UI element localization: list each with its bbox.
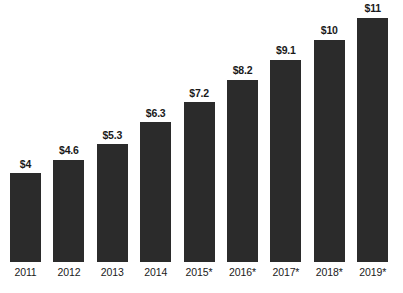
bar: [140, 122, 171, 262]
bar: [53, 160, 84, 262]
bar-group: $4: [10, 0, 41, 262]
x-axis-tick-label: 2019*: [359, 267, 386, 278]
x-axis-tick-label: 2011: [14, 267, 36, 278]
chart-plot-area: $4$4.6$5.3$6.3$7.2$8.2$9.1$10$11: [0, 0, 403, 262]
bar-value-label: $5.3: [102, 130, 122, 141]
x-axis-tick-label: 2012: [57, 267, 80, 278]
x-axis-tick-label: 2013: [101, 267, 124, 278]
bar-group: $8.2: [227, 0, 258, 262]
bar-value-label: $7.2: [189, 88, 209, 99]
bar: [227, 80, 258, 262]
bar-group: $10: [314, 0, 345, 262]
bar-group: $5.3: [97, 0, 128, 262]
x-axis-tick-label: 2017*: [272, 267, 299, 278]
bar: [97, 144, 128, 262]
bar-value-label: $9.1: [276, 45, 296, 56]
x-axis-tick-label: 2018*: [316, 267, 343, 278]
bar-value-label: $10: [321, 25, 338, 36]
bar-group: $11: [357, 0, 388, 262]
bar: [270, 60, 301, 262]
bar: [314, 40, 345, 262]
bar-value-label: $4.6: [59, 145, 79, 156]
x-axis-tick-label: 2015*: [186, 267, 213, 278]
bar-group: $9.1: [270, 0, 301, 262]
x-axis-tick-label: 2016*: [229, 267, 256, 278]
bar-value-label: $4: [20, 159, 31, 170]
bar-value-label: $6.3: [146, 108, 166, 119]
bar: [357, 18, 388, 262]
bar-value-label: $11: [365, 3, 381, 14]
bar-chart: $4$4.6$5.3$6.3$7.2$8.2$9.1$10$11 2011201…: [0, 0, 403, 293]
bar-group: $7.2: [184, 0, 215, 262]
x-axis-tick-label: 2014: [144, 267, 167, 278]
bar: [10, 173, 41, 262]
chart-footer-strip: [0, 284, 403, 293]
bar: [184, 102, 215, 262]
bar-group: $4.6: [53, 0, 84, 262]
bar-value-label: $8.2: [233, 65, 253, 76]
bar-group: $6.3: [140, 0, 171, 262]
